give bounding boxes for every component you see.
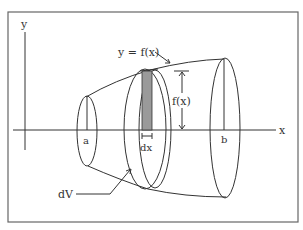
- fx-label: f(x): [172, 95, 191, 108]
- dV-leader: [76, 170, 130, 194]
- y-axis-label: y: [20, 18, 28, 31]
- bottom-curve: [88, 166, 226, 197]
- x-axis-label: x: [279, 124, 286, 137]
- label-a: a: [83, 135, 89, 146]
- shaded-strip: [142, 71, 152, 130]
- label-b: b: [221, 134, 227, 145]
- curve-label: y = f(x): [117, 46, 159, 59]
- dx-label: dx: [140, 142, 152, 153]
- top-curve: [86, 59, 224, 97]
- dV-label: dV: [58, 188, 74, 201]
- solid-of-revolution-diagram: y x a f(x) y = f(x) dx: [0, 0, 303, 230]
- right-disk-b: [210, 58, 240, 198]
